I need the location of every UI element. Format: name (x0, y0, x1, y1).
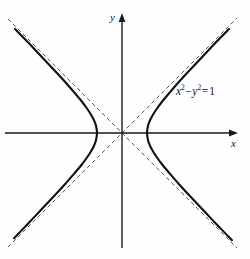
plot-canvas (0, 0, 250, 259)
hyperbola-right-branch (147, 29, 232, 240)
y-axis-arrowhead (119, 13, 126, 22)
equation-equals-operator: = (201, 85, 209, 97)
hyperbola-figure: y x x2−y2=1 (0, 0, 250, 259)
equation-annotation: x2−y2=1 (176, 86, 215, 98)
y-axis-label: y (110, 12, 115, 23)
x-axis-arrowhead (229, 130, 238, 137)
x-axis-label: x (231, 138, 236, 149)
equation-right-hand-side: 1 (209, 85, 216, 97)
